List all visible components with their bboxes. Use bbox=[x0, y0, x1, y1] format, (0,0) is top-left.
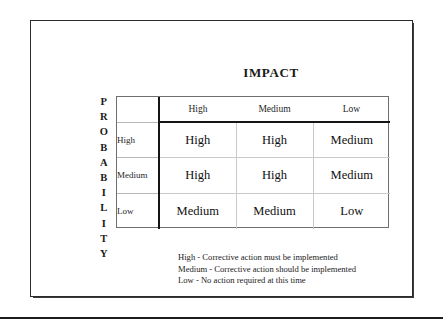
table-row: Low Medium Medium Low bbox=[117, 193, 390, 229]
slide-frame: IMPACT P R O B A B I L I T Y High Med bbox=[30, 20, 413, 297]
axis-letter: Y bbox=[94, 246, 114, 261]
impact-header-row: High Medium Low bbox=[117, 97, 390, 122]
axis-letter: P bbox=[94, 94, 114, 109]
risk-matrix: High Medium Low High High High Medium Me… bbox=[116, 96, 389, 228]
risk-matrix-table: High Medium Low High High High Medium Me… bbox=[117, 97, 390, 229]
impact-header-medium: Medium bbox=[236, 97, 313, 122]
axis-letter: B bbox=[94, 170, 114, 185]
risk-cell-medium-high: High bbox=[159, 158, 236, 194]
footer-rule bbox=[0, 317, 443, 319]
risk-cell-high-low: Medium bbox=[313, 122, 390, 158]
legend-item-medium: Medium - Corrective action should be imp… bbox=[178, 264, 356, 276]
risk-cell-medium-medium: High bbox=[236, 158, 313, 194]
legend-item-high: High - Corrective action must be impleme… bbox=[178, 252, 356, 264]
axis-letter: B bbox=[94, 140, 114, 155]
axis-letter: O bbox=[94, 124, 114, 139]
axis-letter: A bbox=[94, 155, 114, 170]
impact-header-low: Low bbox=[313, 97, 390, 122]
axis-letter: I bbox=[94, 216, 114, 231]
risk-cell-high-high: High bbox=[159, 122, 236, 158]
risk-cell-low-high: Medium bbox=[159, 193, 236, 229]
probability-label-low: Low bbox=[117, 193, 159, 229]
probability-label-medium: Medium bbox=[117, 158, 159, 194]
risk-cell-medium-low: Medium bbox=[313, 158, 390, 194]
probability-label-high: High bbox=[117, 122, 159, 158]
axis-letter: L bbox=[94, 200, 114, 215]
table-row: High High High Medium bbox=[117, 122, 390, 158]
impact-header-high: High bbox=[159, 97, 236, 122]
matrix-corner-cell bbox=[117, 97, 159, 122]
axis-letter: R bbox=[94, 109, 114, 124]
table-row: Medium High High Medium bbox=[117, 158, 390, 194]
risk-cell-high-medium: High bbox=[236, 122, 313, 158]
risk-cell-low-low: Low bbox=[313, 193, 390, 229]
risk-cell-low-medium: Medium bbox=[236, 193, 313, 229]
probability-axis-label: P R O B A B I L I T Y bbox=[94, 94, 114, 261]
page-title: IMPACT bbox=[151, 65, 391, 81]
axis-letter: T bbox=[94, 231, 114, 246]
legend: High - Corrective action must be impleme… bbox=[178, 252, 356, 287]
legend-item-low: Low - No action required at this time bbox=[178, 275, 356, 287]
axis-letter: I bbox=[94, 185, 114, 200]
